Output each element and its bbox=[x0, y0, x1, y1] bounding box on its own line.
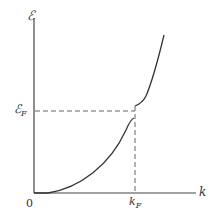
fermi-k-label: kF bbox=[129, 195, 142, 210]
x-axis-label: k bbox=[199, 185, 206, 199]
fermi-energy-label: ℰF bbox=[14, 102, 27, 118]
lower-energy-curve bbox=[34, 118, 134, 193]
energy-diagram: ℰ k 0 ℰF kF bbox=[0, 0, 217, 211]
upper-energy-curve bbox=[135, 35, 164, 106]
origin-label: 0 bbox=[26, 197, 33, 210]
y-axis-label: ℰ bbox=[27, 8, 36, 23]
